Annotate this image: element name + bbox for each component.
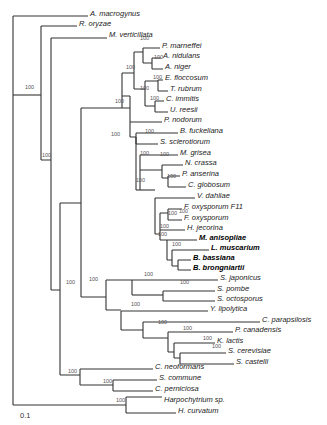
bootstrap-value: 100: [136, 178, 145, 184]
taxon-label: P. nodorum: [164, 116, 202, 124]
bootstrap-value: 100: [103, 379, 112, 385]
bootstrap-value: 100: [150, 96, 159, 102]
scale-bar-label: 0.1: [20, 411, 30, 420]
bootstrap-value: 100: [180, 280, 189, 286]
bootstrap-value: 100: [160, 152, 169, 158]
bootstrap-value: 100: [66, 280, 75, 286]
bootstrap-value: 100: [140, 36, 149, 42]
taxon-label: P. canadensis: [235, 326, 281, 334]
taxon-label: U. reesii: [170, 106, 198, 114]
bootstrap-value: 100: [115, 99, 124, 105]
taxon-label: S. commune: [159, 374, 201, 382]
taxon-label: P. marneffei: [162, 42, 201, 50]
taxon-label: R. oryzae: [79, 20, 111, 28]
taxon-label: C. perniciosa: [155, 385, 199, 393]
taxon-label: A. niger: [165, 63, 191, 71]
taxon-label: B. bassiana: [193, 254, 235, 262]
bootstrap-value: 100: [154, 55, 163, 61]
taxon-label: H. curvatum: [178, 407, 218, 415]
taxon-label: S. japonicus: [220, 274, 261, 282]
taxon-label: E. floccosum: [165, 74, 208, 82]
taxon-label: C. globosum: [188, 181, 230, 189]
bootstrap-value: 100: [145, 129, 154, 135]
taxon-label: M. anisopliae: [199, 234, 246, 242]
taxon-label: L. muscarium: [211, 244, 260, 252]
taxon-label: C. neoformans: [155, 363, 204, 371]
bootstrap-value: 100: [160, 224, 169, 230]
taxon-label: B. fuckeliana: [180, 127, 223, 135]
bootstrap-value: 100: [203, 336, 212, 342]
taxon-label: A. macrogynus: [90, 10, 140, 18]
taxon-label: H. jecorina: [187, 224, 223, 232]
bootstrap-value: 100: [131, 302, 140, 308]
bootstrap-value: 100: [144, 272, 153, 278]
taxon-label: S. pombe: [217, 285, 249, 293]
bootstrap-value: 100: [158, 232, 167, 238]
bootstrap-value: 100: [140, 151, 149, 157]
taxon-label: S. sclerotiorum: [160, 138, 210, 146]
taxon-label: T. rubrum: [170, 85, 202, 93]
bootstrap-value: 100: [153, 75, 162, 81]
bootstrap-value: 100: [68, 369, 77, 375]
taxon-label: Y. lipolytica: [210, 305, 247, 313]
bootstrap-value: 100: [89, 277, 98, 283]
bootstrap-value: 100: [172, 242, 181, 248]
taxon-label: F. oxysporum: [184, 214, 228, 222]
taxon-label: M. grisea: [180, 149, 211, 157]
bootstrap-value: 100: [140, 86, 149, 92]
taxon-label: S. castelli: [236, 358, 268, 366]
taxon-label: S. cerevisiae: [228, 347, 271, 355]
bootstrap-value: 100: [116, 398, 125, 404]
taxon-label: N. crassa: [185, 159, 217, 167]
bootstrap-value: 100: [126, 65, 135, 71]
bootstrap-value: 100: [25, 85, 34, 91]
taxon-label: C. parapsilosis: [262, 316, 311, 324]
bootstrap-value: 100: [158, 320, 167, 326]
taxon-label: S. octosporus: [217, 295, 263, 303]
taxon-label: C. immitis: [166, 95, 199, 103]
bootstrap-value: 100: [42, 153, 51, 159]
bootstrap-value: 100: [111, 132, 120, 138]
bootstrap-value: 100: [179, 209, 188, 215]
bootstrap-value: 100: [183, 326, 192, 332]
taxon-label: A. nidulans: [163, 52, 200, 60]
taxon-label: P. anserina: [182, 170, 219, 178]
taxon-label: V. dahliae: [197, 192, 230, 200]
bootstrap-value: 100: [212, 344, 221, 350]
taxon-label: Harpochytrium sp.: [164, 396, 225, 404]
bootstrap-value: 100: [167, 174, 176, 180]
taxon-label: B. brongniartii: [193, 264, 244, 272]
bootstrap-value: 100: [168, 211, 177, 217]
taxon-label: F. oxysporum F11: [184, 203, 243, 211]
